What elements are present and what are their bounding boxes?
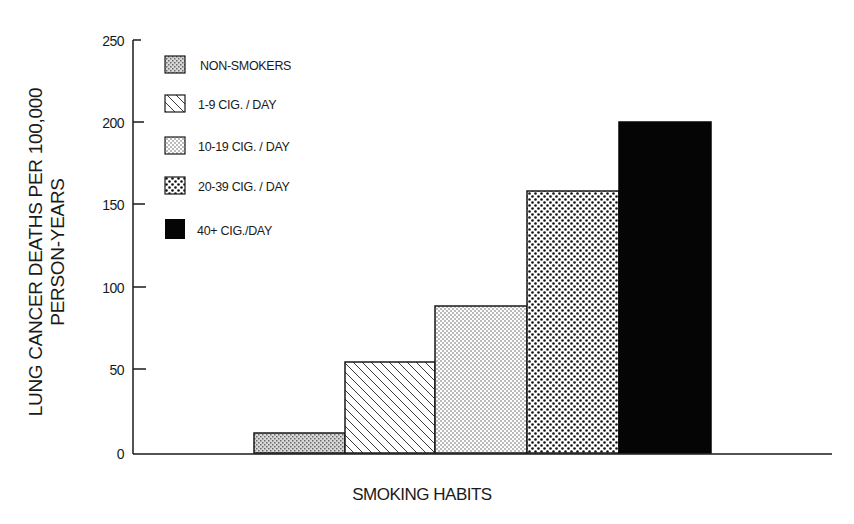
y-tick-150: 150 [102,197,125,213]
y-axis-label-line2: PERSON-YEARS [47,178,68,325]
bar-20-39-cig-day [527,191,619,453]
legend-swatch-coarse-dots [165,177,185,194]
y-axis-label-line1: LUNG CANCER DEATHS PER 100,000 [25,88,46,417]
legend-label: 10-19 CIG. / DAY [198,140,290,154]
y-tick-50: 50 [109,362,124,378]
legend: NON-SMOKERS 1-9 CIG. / DAY 10-19 CIG. / … [165,56,291,239]
legend-label: 20-39 CIG. / DAY [198,180,290,194]
legend-item-40-plus-cig-day: 40+ CIG./DAY [165,219,273,239]
y-axis-label: LUNG CANCER DEATHS PER 100,000 PERSON-YE… [25,88,68,417]
legend-label: NON-SMOKERS [200,59,291,73]
bar-non-smokers [254,433,345,453]
legend-swatch-solid-black [165,219,185,239]
x-axis-label: SMOKING HABITS [352,485,492,504]
bar-10-19-cig-day [435,306,527,453]
legend-label: 40+ CIG./DAY [197,224,273,238]
legend-swatch-fine-dots [165,137,185,154]
y-tick-100: 100 [102,280,125,296]
bar-1-9-cig-day [345,362,435,453]
legend-item-10-19-cig-day: 10-19 CIG. / DAY [165,137,290,154]
legend-label: 1-9 CIG. / DAY [198,98,277,112]
legend-swatch-fine-crosshatch [165,56,185,73]
y-axis: 250 200 150 100 50 0 [102,33,146,462]
legend-item-1-9-cig-day: 1-9 CIG. / DAY [165,95,277,112]
legend-swatch-diagonal-hatch [165,95,185,112]
y-tick-200: 200 [102,115,125,131]
y-tick-0: 0 [117,446,125,462]
y-tick-250: 250 [102,33,125,49]
bar-40-plus-cig-day [619,122,711,453]
bars [254,122,711,453]
legend-item-20-39-cig-day: 20-39 CIG. / DAY [165,177,290,194]
bar-chart: LUNG CANCER DEATHS PER 100,000 PERSON-YE… [0,0,854,524]
legend-item-non-smokers: NON-SMOKERS [165,56,291,73]
